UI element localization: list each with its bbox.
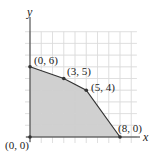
vertex-point [84, 88, 88, 92]
label-8-0: (8, 0) [118, 122, 142, 135]
x-axis-label: x [142, 130, 149, 144]
label-5-4: (5, 4) [91, 81, 115, 94]
vertex-point [62, 77, 66, 81]
vertex-point [28, 65, 32, 69]
label-3-5: (3, 5) [67, 65, 91, 78]
y-axis-label: y [26, 5, 33, 19]
feasible-region-chart: x y (0, 6) (3, 5) (5, 4) (8, 0) (0, 0) [0, 0, 157, 161]
label-0-6: (0, 6) [34, 54, 58, 67]
label-0-0: (0, 0) [5, 139, 29, 152]
vertex-point [118, 135, 122, 139]
